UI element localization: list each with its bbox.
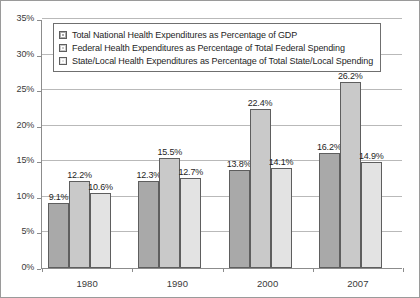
bar — [48, 203, 69, 268]
bar-value-label: 15.5% — [149, 147, 190, 157]
legend-item: Federal Health Expenditures as Percentag… — [59, 41, 373, 54]
x-axis-label: 2000 — [223, 278, 313, 289]
y-tick-label: 30% — [17, 49, 34, 59]
legend-swatch-icon — [59, 44, 67, 52]
legend-label: Federal Health Expenditures as Percentag… — [72, 43, 345, 53]
x-axis-tick — [132, 268, 133, 272]
bar-value-label: 10.6% — [80, 182, 121, 192]
x-axis-label: 1990 — [132, 278, 222, 289]
x-axis-label: 1980 — [42, 278, 132, 289]
bar — [271, 168, 292, 268]
y-tick-label: 5% — [21, 226, 34, 236]
x-axis-tick — [42, 268, 43, 272]
y-tick-label: 0% — [21, 262, 34, 272]
bar — [319, 153, 340, 268]
y-tick-mark — [37, 269, 41, 270]
legend-item: State/Local Health Expenditures as Perce… — [59, 54, 373, 67]
y-tick-mark — [37, 20, 41, 21]
x-axis-tick — [223, 268, 224, 272]
y-tick-mark — [37, 56, 41, 57]
legend-swatch-icon — [59, 31, 67, 39]
bar — [138, 181, 159, 269]
bar-value-label: 14.9% — [351, 151, 392, 161]
y-tick-label: 35% — [17, 13, 34, 23]
bar — [361, 162, 382, 268]
legend: Total National Health Expenditures as Pe… — [53, 23, 381, 72]
bar-value-label: 12.2% — [59, 170, 100, 180]
legend-swatch-icon — [59, 57, 67, 65]
legend-label: Total National Health Expenditures as Pe… — [72, 30, 297, 40]
bar — [340, 82, 361, 268]
bar-value-label: 14.1% — [261, 157, 302, 167]
y-tick-label: 20% — [17, 120, 34, 130]
bar-value-label: 22.4% — [240, 98, 281, 108]
bar — [229, 170, 250, 268]
y-tick-mark — [37, 127, 41, 128]
legend-item: Total National Health Expenditures as Pe… — [59, 28, 373, 41]
y-tick-mark — [37, 91, 41, 92]
y-tick-mark — [37, 198, 41, 199]
x-axis-tick — [313, 268, 314, 272]
bar-value-label: 12.7% — [170, 167, 211, 177]
x-axis-tick — [403, 268, 404, 272]
bar — [250, 109, 271, 268]
bar — [90, 193, 111, 268]
y-tick-label: 10% — [17, 191, 34, 201]
y-tick-mark — [37, 162, 41, 163]
y-tick-label: 15% — [17, 155, 34, 165]
bar-value-label: 26.2% — [330, 71, 371, 81]
bar-chart: 9.1%12.2%10.6%12.3%15.5%12.7%13.8%22.4%1… — [0, 0, 420, 298]
bar — [69, 181, 90, 268]
x-axis-label: 2007 — [313, 278, 403, 289]
legend-label: State/Local Health Expenditures as Perce… — [72, 56, 373, 66]
y-tick-mark — [37, 233, 41, 234]
gridline — [42, 18, 402, 19]
y-tick-label: 25% — [17, 84, 34, 94]
bar — [180, 178, 201, 268]
